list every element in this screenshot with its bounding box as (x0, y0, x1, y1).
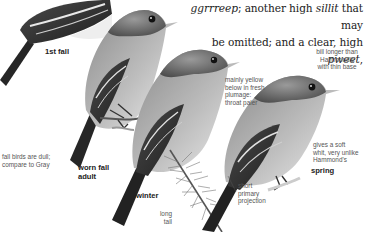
annotation-line: below in fresh (225, 84, 264, 92)
annotation-line: Hammond's (313, 156, 358, 164)
annotation-line: compare to Gray (2, 161, 50, 169)
flycatcher-illustrations (0, 0, 365, 232)
label-worn-fall-adult: worn fall adult (78, 164, 109, 181)
annotation-line: gives a soft (313, 141, 358, 149)
annotation-line: primary (238, 190, 266, 198)
field-guide-page: ggrrreep; another high sillit that may b… (0, 0, 365, 232)
label-winter: winter (136, 192, 158, 201)
annotation-line: mainly yellow (225, 76, 264, 84)
annotation-line: whit, very unlike (313, 149, 358, 157)
annotation-long-tail: long tail (150, 210, 172, 225)
annotation-line: throat paler (225, 99, 264, 107)
label-spring: spring (311, 167, 334, 176)
annotation-line: long (150, 210, 172, 218)
annotation-fall-birds-dull: fall birds are dull; compare to Gray (2, 153, 50, 168)
label-line: adult (78, 173, 109, 182)
annotation-line: projection (238, 197, 266, 205)
label-first-fall: 1st fall (45, 48, 69, 57)
annotation-soft-whit: gives a soft whit, very unlike Hammond's (313, 141, 358, 164)
annotation-bill-length: bill longer than Hammond's with thin bas… (308, 48, 365, 71)
annotation-line: plumage: (225, 91, 264, 99)
annotation-line: tail (150, 218, 172, 226)
annotation-line: Hammond's (308, 56, 365, 64)
annotation-yellow-below: mainly yellow below in fresh plumage: th… (225, 76, 264, 106)
annotation-line: short (238, 182, 266, 190)
annotation-line: with thin base (308, 63, 365, 71)
annotation-line: bill longer than (308, 48, 365, 56)
annotation-short-primary-projection: short primary projection (238, 182, 266, 205)
annotation-line: fall birds are dull; (2, 153, 50, 161)
